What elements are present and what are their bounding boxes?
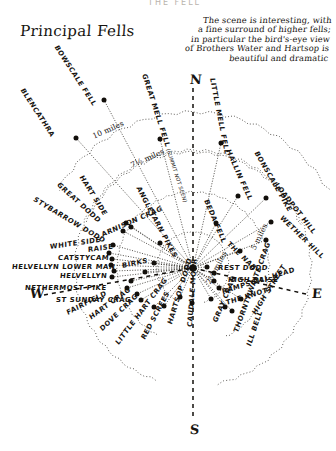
summit-dot [152, 261, 157, 266]
compass-north: N [189, 72, 202, 87]
fell-label: NETHERMOST PIKE [25, 284, 107, 292]
summit-dot [269, 220, 274, 225]
summit-dot [236, 194, 241, 199]
summit-dot [74, 136, 79, 141]
distance-ring [60, 111, 330, 191]
summit-dot [110, 257, 115, 262]
compass-east: E [311, 286, 322, 301]
summit-dot [264, 196, 269, 201]
fell-label-name: HELVELLYN LOWER MAN [12, 263, 116, 271]
summit-dot [230, 309, 235, 314]
panorama-diagram: THE FELL Principal Fells The scene is in… [0, 0, 336, 451]
sight-line [160, 139, 193, 268]
fell-label: HELVELLYN LOWER MAN [12, 263, 116, 271]
fell-label-name: ST SUNDAY CRAG [56, 296, 132, 304]
fell-label-name: NETHERMOST PIKE [25, 284, 107, 292]
summit-dot [129, 279, 134, 284]
summit-dot [205, 265, 210, 270]
summit-dot [110, 275, 115, 280]
summit-dot [143, 270, 148, 275]
fell-label: ST SUNDAY CRAG [56, 296, 132, 304]
fell-label-name: CATSTYCAM [58, 254, 110, 262]
fell-label-name: HELVELLYN [60, 272, 108, 280]
fell-label: HELVELLYN [60, 272, 108, 280]
compass-south: S [189, 422, 200, 437]
fell-label: CATSTYCAM [58, 254, 110, 262]
summit-dot [209, 297, 214, 302]
summit-dot [102, 98, 107, 103]
